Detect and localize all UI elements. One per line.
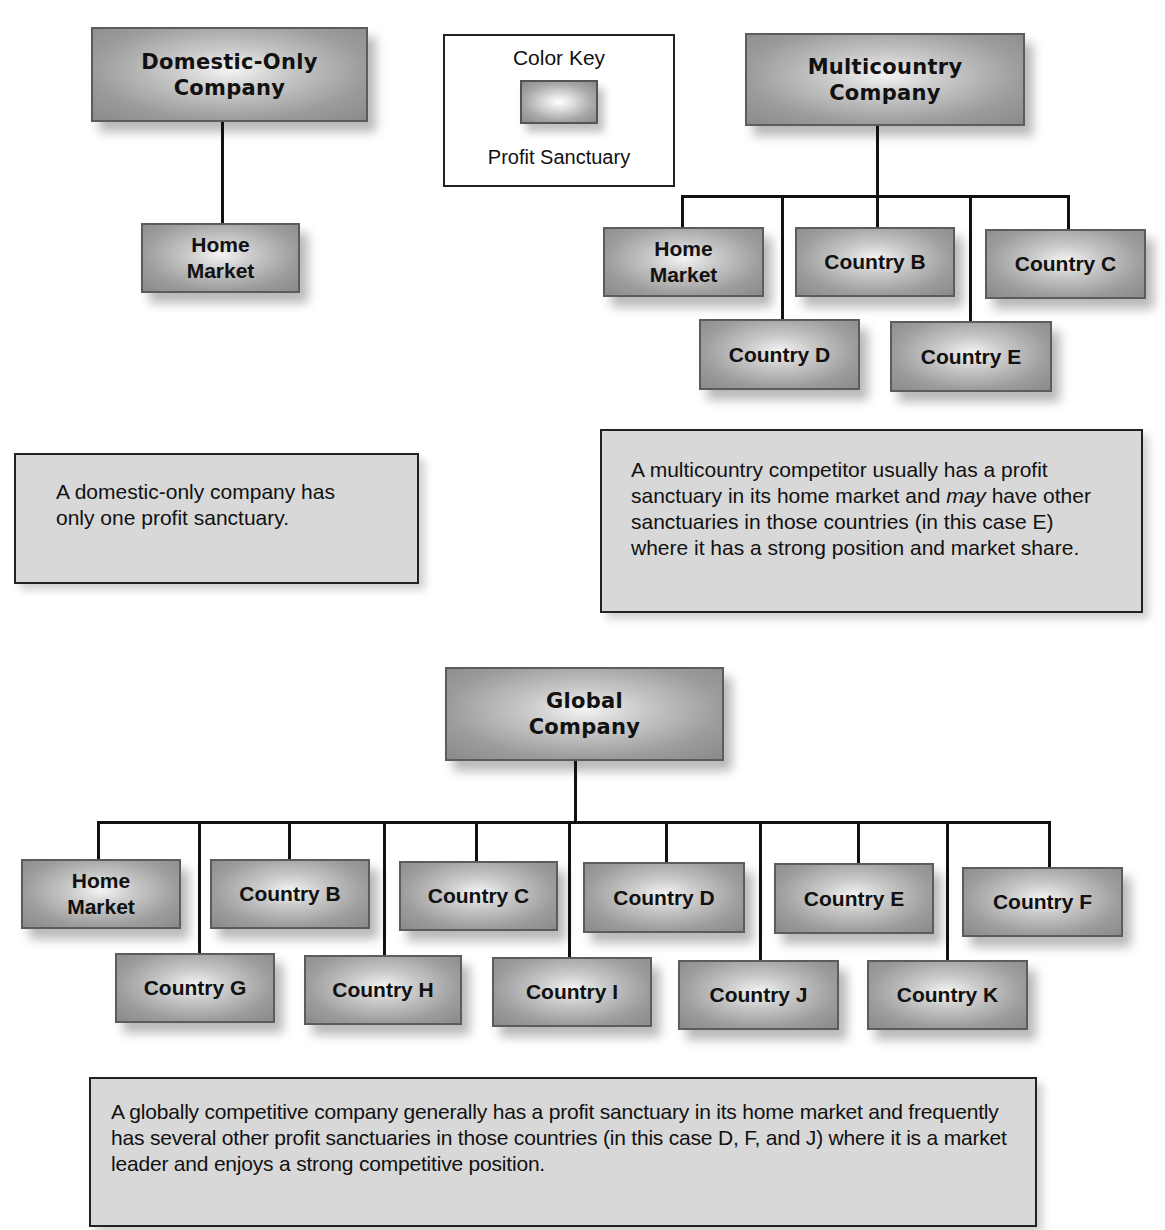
global-country-f-node: Country F [962, 867, 1123, 937]
multicountry-country-d-node: Country D [699, 319, 860, 390]
connector-line [568, 821, 571, 959]
note-text: A globally competitive company generally… [111, 1100, 1007, 1175]
connector-line [946, 821, 949, 963]
domestic-home-market-node: Home Market [141, 223, 300, 293]
connector-line [475, 821, 478, 863]
global-country-g-node: Country G [115, 953, 275, 1023]
domestic-note: A domestic-only company has only one pro… [14, 453, 419, 584]
multicountry-country-b-node: Country B [795, 227, 955, 297]
connector-line [857, 821, 860, 865]
global-note: A globally competitive company generally… [89, 1077, 1037, 1227]
note-text-emphasis: may [946, 484, 986, 507]
color-key-caption: Profit Sanctuary [445, 146, 673, 169]
node-label: Country G [144, 975, 247, 1001]
global-country-d-node: Country D [583, 862, 745, 933]
global-country-e-node: Country E [774, 863, 934, 934]
note-text: A domestic-only company has only one pro… [56, 480, 335, 529]
connector-line [198, 821, 201, 955]
node-label: Domestic-Only Company [141, 49, 317, 101]
multicountry-company-node: Multicountry Company [745, 33, 1025, 126]
profit-sanctuary-swatch [520, 80, 598, 124]
node-label: Country J [709, 982, 807, 1008]
node-label: Country I [526, 979, 618, 1005]
connector-line [781, 195, 784, 321]
node-label: Country H [332, 977, 434, 1003]
color-key-legend: Color Key Profit Sanctuary [443, 34, 675, 187]
node-label: Global Company [529, 688, 641, 740]
global-country-c-node: Country C [399, 861, 558, 931]
connector-line [876, 195, 879, 229]
global-home-market-node: Home Market [21, 859, 181, 929]
connector-line [1048, 821, 1051, 869]
connector-line [1067, 195, 1070, 231]
node-label: Country E [921, 344, 1021, 370]
connector-line [759, 821, 762, 962]
connector-line [665, 821, 668, 864]
node-label: Country K [897, 982, 999, 1008]
node-label: Country B [239, 881, 341, 907]
node-label: Country C [1015, 251, 1117, 277]
connector-line [97, 821, 100, 861]
multicountry-home-market-node: Home Market [603, 227, 764, 297]
node-label: Country D [729, 342, 831, 368]
node-label: Home Market [187, 232, 255, 284]
global-country-j-node: Country J [678, 960, 839, 1030]
connector-line [681, 195, 684, 229]
multicountry-country-c-node: Country C [985, 229, 1146, 299]
connector-line [383, 821, 386, 957]
domestic-only-company-node: Domestic-Only Company [91, 27, 368, 122]
global-country-i-node: Country I [492, 957, 652, 1027]
node-label: Country F [993, 889, 1092, 915]
node-label: Country C [428, 883, 530, 909]
connector-line [969, 195, 972, 323]
connector-bus [97, 821, 1051, 824]
multicountry-country-e-node: Country E [890, 321, 1052, 392]
global-country-k-node: Country K [867, 960, 1028, 1030]
node-label: Home Market [650, 236, 718, 288]
connector-line [221, 122, 224, 224]
node-label: Country E [804, 886, 904, 912]
global-country-b-node: Country B [210, 859, 370, 929]
multicountry-note: A multicountry competitor usually has a … [600, 429, 1143, 613]
node-label: Country B [824, 249, 926, 275]
node-label: Home Market [67, 868, 135, 920]
color-key-title: Color Key [445, 46, 673, 70]
node-label: Multicountry Company [808, 54, 963, 106]
connector-line [876, 126, 879, 196]
global-company-node: Global Company [445, 667, 724, 761]
node-label: Country D [613, 885, 715, 911]
connector-line [288, 821, 291, 861]
connector-line [574, 761, 577, 823]
global-country-h-node: Country H [304, 955, 462, 1025]
